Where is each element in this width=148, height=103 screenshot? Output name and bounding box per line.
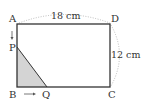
arrow-q-head-icon bbox=[33, 93, 36, 96]
width-label: 18 cm bbox=[51, 10, 80, 21]
height-label: 12 cm bbox=[111, 49, 140, 60]
vertex-label-c: C bbox=[108, 89, 116, 100]
arrow-p-head-icon bbox=[11, 37, 14, 40]
rectangle-diagram: A D P B Q C 18 cm 12 cm bbox=[0, 0, 148, 103]
vertex-label-p: P bbox=[9, 42, 16, 53]
vertex-label-q: Q bbox=[42, 89, 50, 100]
vertex-label-b: B bbox=[9, 89, 16, 100]
vertex-label-d: D bbox=[111, 13, 119, 24]
vertex-label-a: A bbox=[8, 13, 17, 24]
